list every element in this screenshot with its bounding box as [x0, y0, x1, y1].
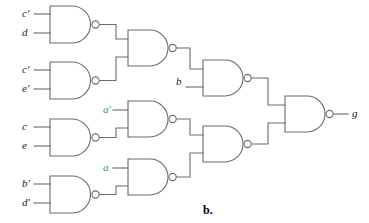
figure-canvas: c′ d c′ e′ c e b′ d′ a′ a b g b. — [0, 0, 369, 223]
wire-g8-to-g10 — [251, 78, 285, 105]
nand-gate-4 — [50, 176, 99, 213]
wire-g3-to-g6 — [99, 128, 128, 138]
wire-g5-to-g8 — [176, 48, 203, 69]
input-label-d-prime: d′ — [22, 197, 30, 208]
input-label-b: b — [176, 76, 182, 87]
input-label-a-prime: a′ — [103, 104, 111, 115]
nand-gate-10-output — [285, 96, 333, 132]
nand-gate-8 — [203, 60, 251, 96]
nand-gate-5 — [128, 30, 176, 66]
input-label-d: d — [22, 27, 28, 38]
wire-g2-to-g5 — [99, 57, 128, 81]
nand-gate-9 — [203, 126, 251, 162]
nand-gate-1 — [50, 6, 99, 43]
nand-gate-2 — [50, 62, 99, 99]
nand-gate-3 — [50, 119, 99, 156]
input-label-c-prime-2: c′ — [22, 64, 29, 75]
input-label-c-prime-1: c′ — [22, 8, 29, 19]
input-label-e-prime: e′ — [22, 83, 29, 94]
wire-g4-to-g7 — [99, 186, 128, 195]
wire-g1-to-g5 — [99, 25, 128, 40]
wire-g6-to-g9 — [176, 119, 203, 135]
figure-caption: b. — [203, 203, 213, 218]
wire-g9-to-g10 — [251, 123, 285, 144]
nand-gate-6 — [128, 101, 176, 137]
nand-gate-7 — [128, 159, 176, 195]
wire-g7-to-g9 — [176, 153, 203, 177]
output-label-g: g — [352, 108, 358, 119]
wire-group — [34, 14, 348, 203]
input-label-c: c — [22, 121, 27, 132]
input-label-a: a — [103, 162, 109, 173]
gate-group — [50, 6, 333, 213]
logic-circuit-diagram — [0, 0, 369, 223]
input-label-b-prime: b′ — [22, 178, 30, 189]
input-label-e: e — [22, 140, 27, 151]
